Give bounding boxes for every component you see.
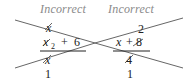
denominator-var: x	[116, 36, 121, 48]
cancel-top: 4	[126, 54, 132, 66]
denominator-var: x	[43, 36, 48, 48]
denominator-op: +	[61, 36, 68, 48]
incorrect-label: Incorrect	[40, 2, 86, 17]
strike-line	[15, 20, 95, 43]
denominator-const: 8	[136, 36, 142, 48]
numerator: x	[46, 22, 51, 34]
denominator-const: 6	[74, 36, 80, 48]
denominator-op: +	[126, 36, 133, 48]
strike-lines	[0, 0, 191, 83]
result: 1	[127, 68, 133, 80]
denominator-exp: 2	[51, 42, 55, 51]
strike-line	[15, 43, 95, 68]
incorrect-label: Incorrect	[108, 2, 154, 17]
cancel-top: x	[45, 54, 50, 66]
result: 1	[45, 68, 51, 80]
numerator: 2	[138, 23, 144, 35]
